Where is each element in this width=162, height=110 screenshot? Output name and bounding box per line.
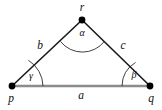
side-label-c: c xyxy=(120,39,125,51)
side-label-a: a xyxy=(78,89,84,101)
vertex-label-q: q xyxy=(148,92,154,105)
vertex-dot-p xyxy=(9,83,16,90)
angle-alpha-arc xyxy=(61,41,105,52)
side-label-b: b xyxy=(37,39,43,51)
vertex-dot-q xyxy=(147,83,154,90)
triangle-svg-canvas: p q r a b c α β γ xyxy=(0,0,162,110)
angle-label-gamma: γ xyxy=(29,70,34,81)
vertex-dot-r xyxy=(79,17,86,24)
vertex-label-p: p xyxy=(7,92,14,105)
side-c-line xyxy=(82,20,150,86)
angle-label-beta: β xyxy=(131,69,137,80)
triangle-diagram: p q r a b c α β γ xyxy=(0,0,162,110)
side-b-line xyxy=(12,20,82,86)
vertex-label-r: r xyxy=(80,1,85,13)
angle-label-alpha: α xyxy=(79,27,85,38)
